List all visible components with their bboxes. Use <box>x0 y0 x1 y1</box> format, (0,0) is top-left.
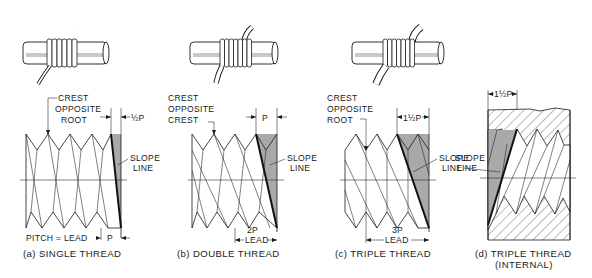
slope-label-2: LINE <box>133 163 153 173</box>
top-dimension: 1½P <box>494 89 513 99</box>
slope-label-1: SLOPE <box>287 153 317 163</box>
caption-single-thread: (a) SINGLE THREAD <box>23 248 121 259</box>
caption-internal-sub: (INTERNAL) <box>495 259 553 270</box>
top-dimension: ½P <box>131 113 145 123</box>
double-wire-rod-illustration <box>190 27 278 83</box>
panel-single-thread: CREST OPPOSITE ROOT ½P SLOPE LINE PITCH … <box>20 93 160 259</box>
lead-2p-label: 2P <box>247 225 258 235</box>
caption-triple-thread-internal: (d) TRIPLE THREAD <box>475 248 572 259</box>
slope-label-1-visible: SLOPE <box>455 153 485 163</box>
pitch-p-label: P <box>107 233 113 243</box>
panel-double-thread: CREST OPPOSITE CREST P SLOPE LINE 2P LEA… <box>168 93 317 259</box>
callout-opposite: OPPOSITE <box>168 104 214 114</box>
panel-triple-thread-internal: 1½P SLOPE SLOPE LINE (d) TRIPLE THREAD (… <box>441 89 576 270</box>
callout-root: ROOT <box>61 115 87 125</box>
callout-crest: CREST <box>168 93 199 103</box>
lead-label: LEAD <box>385 235 409 245</box>
slope-label-2: LINE <box>290 163 310 173</box>
top-dimension: P <box>262 113 268 123</box>
single-wire-rod-illustration <box>23 28 109 84</box>
slope-label-2: LINE <box>457 163 477 173</box>
callout-crest: CREST <box>58 93 89 103</box>
triple-wire-rod-illustration <box>352 27 444 84</box>
callout-root: ROOT <box>327 115 353 125</box>
callout-crest: CREST <box>327 93 358 103</box>
panel-triple-thread: CREST OPPOSITE ROOT 1½P SLOPE LINE 3P LE… <box>327 93 469 259</box>
caption-triple-thread: (c) TRIPLE THREAD <box>335 248 431 259</box>
slope-label-1: SLOPE <box>130 153 160 163</box>
lead-label: LEAD <box>245 235 269 245</box>
thread-diagram-figure: CREST OPPOSITE ROOT ½P SLOPE LINE PITCH … <box>0 0 592 278</box>
top-dimension: 1½P <box>403 113 422 123</box>
callout-opposite: OPPOSITE <box>55 104 101 114</box>
lead-3p-label: 3P <box>392 225 403 235</box>
pitch-lead-label: PITCH = LEAD <box>26 233 88 243</box>
caption-double-thread: (b) DOUBLE THREAD <box>177 248 280 259</box>
callout-crest-2: CREST <box>168 115 199 125</box>
callout-opposite: OPPOSITE <box>327 104 373 114</box>
